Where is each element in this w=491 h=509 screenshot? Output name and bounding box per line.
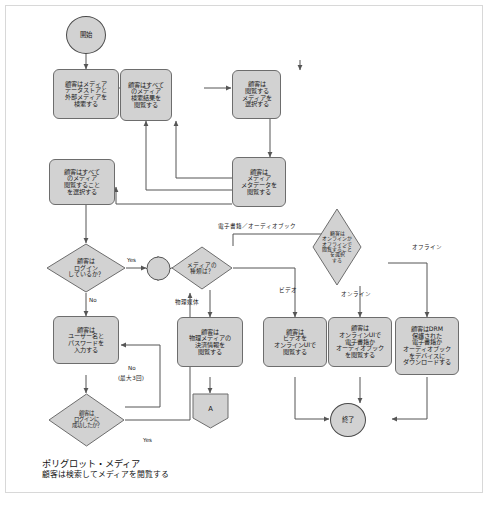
decision-online-offline-label: 顧客は オンラインか オフラインで 閲覧すること を選択 する [322, 231, 352, 263]
decision-login-success[interactable]: 顧客は ログインに 成功したか？ [48, 393, 125, 447]
node-select-media[interactable]: 顧客は 閲覧する メディアを 選択する [232, 70, 281, 119]
merge-circle-icon [146, 256, 171, 281]
node-video-online[interactable]: 顧客は ビデオを オンラインUIで 閲覧する [263, 317, 327, 367]
edge-label-online: オンライン [341, 292, 371, 298]
node-view-metadata[interactable]: 顧客は メディア メタデータを 閲覧する [232, 157, 286, 207]
edge-label-no-retry: No [128, 366, 136, 372]
node-ebook-online[interactable]: 顧客は オンラインUIで 電子書籍か オーディオブック を閲覧する [328, 317, 392, 367]
node-view-metadata-label: 顧客は メディア メタデータを 閲覧する [241, 169, 277, 196]
node-enter-credentials-label: 顧客は ユーザー名と パスワードを 入力する [68, 327, 104, 354]
node-video-online-label: 顧客は ビデオを オンラインUIで 閲覧する [274, 329, 316, 356]
decision-media-type[interactable]: メディアの 種類は？ [171, 246, 233, 290]
decision-logged-in[interactable]: 顧客は ログイン しているか？ [46, 243, 126, 293]
node-drm-download[interactable]: 顧客はDRM 保護された 電子書籍か オーディオブック をデバイスに ダウンロー… [395, 317, 459, 375]
node-start[interactable]: 開始 [66, 16, 106, 54]
diagram-subtitle: 顧客は検索してメディアを閲覧する [42, 470, 169, 481]
node-browse-results-label: 顧客はすべて のメディア 検索結果を 閲覧する [128, 82, 164, 109]
node-browse-all-media[interactable]: 顧客はすべて のメディア 閲覧すること を選択する [49, 159, 115, 205]
diagram-title: ポリグロット・メディア [42, 458, 169, 470]
edge-label-ebook-audiobook: 電子書籍／オーディオブック [218, 224, 296, 230]
node-browse-results[interactable]: 顧客はすべて のメディア 検索結果を 閲覧する [120, 69, 172, 121]
edge-label-no-retry-count: (最大3回) [118, 376, 144, 382]
node-drm-download-label: 顧客はDRM 保護された 電子書籍か オーディオブック をデバイスに ダウンロー… [403, 326, 451, 366]
node-end[interactable]: 終了 [330, 403, 366, 437]
diagram-caption: ポリグロット・メディア 顧客は検索してメディアを閲覧する [42, 458, 169, 481]
node-start-label: 開始 [80, 32, 92, 39]
connector-a-label: A [208, 405, 213, 413]
node-ebook-online-label: 顧客は オンラインUIで 電子書籍か オーディオブック を閲覧する [336, 325, 384, 358]
decision-media-type-label: メディアの 種類は？ [187, 262, 217, 274]
edge-label-yes-retry: Yes [143, 438, 152, 444]
node-search-media-label: 顧客はメディア データストアと 外部メディアを 検索する [65, 81, 107, 108]
node-physical-payment[interactable]: 顧客は 物理メディアの 決済情報を 閲覧する [177, 317, 243, 367]
edge-label-offline: オフライン [412, 245, 442, 251]
node-physical-payment-label: 顧客は 物理メディアの 決済情報を 閲覧する [189, 329, 231, 356]
edge-label-physical-media: 物理媒体 [175, 300, 199, 306]
connector-a[interactable]: A [192, 393, 229, 429]
merge-junction [146, 256, 171, 281]
node-search-media[interactable]: 顧客はメディア データストアと 外部メディアを 検索する [53, 69, 119, 119]
flowchart-canvas: 開始 顧客はメディア データストアと 外部メディアを 検索する 顧客はすべて の… [0, 0, 491, 509]
decision-online-offline[interactable]: 顧客は オンラインか オフラインで 閲覧すること を選択 する [312, 208, 362, 286]
node-select-media-label: 顧客は 閲覧する メディアを 選択する [242, 81, 272, 108]
node-end-label: 終了 [342, 417, 354, 424]
node-browse-all-media-label: 顧客はすべて のメディア 閲覧すること を選択する [64, 169, 100, 196]
decision-login-success-label: 顧客は ログインに 成功したか？ [72, 411, 102, 429]
decision-logged-in-label: 顧客は ログイン しているか？ [68, 258, 104, 278]
edge-label-no-login: No [89, 298, 97, 304]
node-enter-credentials[interactable]: 顧客は ユーザー名と パスワードを 入力する [53, 316, 119, 364]
edge-label-video: ビデオ [279, 288, 297, 294]
edge-label-yes-login: Yes [127, 258, 136, 264]
